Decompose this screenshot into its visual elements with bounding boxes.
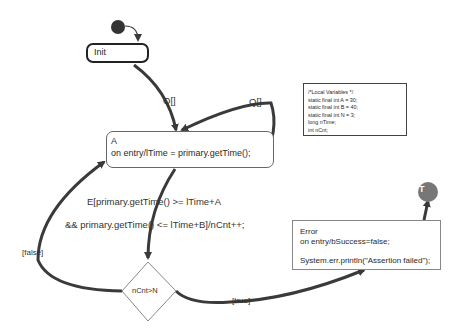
state-error-action: System.err.println("Assertion failed");: [300, 256, 433, 266]
state-a-entry: on entry/lTime = primary.getTime();: [111, 147, 269, 159]
state-init-name: Init: [94, 47, 106, 57]
state-error-entry: on entry/bSuccess=false;: [300, 237, 433, 247]
note-line: static final int N = 3;: [308, 112, 402, 120]
state-a[interactable]: A on entry/lTime = primary.getTime();: [106, 131, 274, 168]
label-a-to-choice-line1: E[primary.getTime() >= lTime+A: [87, 196, 221, 207]
label-a-to-choice-line2: && primary.getTime() <= lTime+B]/nCnt++;: [65, 219, 244, 230]
label-true: [true]: [232, 296, 250, 305]
state-error[interactable]: Error on entry/bSuccess=false; System.er…: [292, 220, 441, 270]
note-line: static final int B = 40;: [308, 104, 402, 112]
transition-a-to-choice: [148, 169, 175, 258]
label-false: [false]: [22, 248, 43, 257]
final-state-label: T: [419, 184, 425, 194]
transition-error-to-final: [424, 201, 428, 220]
state-a-name: A: [111, 135, 269, 147]
local-variables-note[interactable]: /*Local Variables */ static final int A …: [303, 83, 407, 136]
choice-label: nCnt>N: [132, 286, 158, 295]
note-line: /*Local Variables */: [308, 89, 402, 97]
spacer: [300, 247, 433, 256]
label-self-loop: Q[]: [249, 96, 262, 107]
note-line: long nTime;: [308, 119, 402, 127]
initial-transition: [125, 26, 138, 40]
label-init-to-a: Q[]: [163, 95, 176, 106]
state-error-name: Error: [300, 227, 433, 237]
note-line: int nCnt;: [308, 127, 402, 135]
transition-choice-true: [176, 270, 364, 303]
initial-pseudostate-icon: [111, 20, 125, 34]
note-line: static final int A = 30;: [308, 97, 402, 105]
state-init[interactable]: Init: [86, 43, 149, 63]
